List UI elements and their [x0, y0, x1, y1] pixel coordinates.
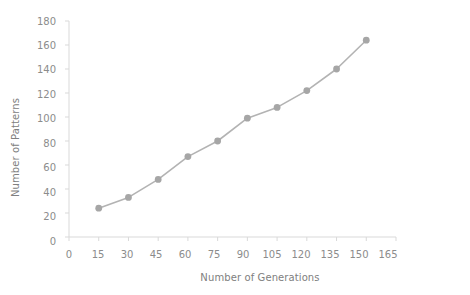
data-point-marker: [303, 87, 310, 94]
data-point-marker: [155, 176, 162, 183]
data-point-marker: [363, 37, 370, 44]
data-point-marker: [95, 205, 102, 212]
data-point-marker: [185, 153, 192, 160]
data-series-line: [99, 40, 367, 208]
data-point-marker: [214, 138, 221, 145]
data-point-marker: [333, 66, 340, 73]
data-series-markers: [95, 37, 369, 212]
data-point-marker: [274, 104, 281, 111]
data-point-marker: [244, 115, 251, 122]
plot-area: [0, 0, 470, 295]
data-point-marker: [125, 194, 132, 201]
chart-container: Number of Patterns Number of Generations…: [0, 0, 470, 295]
